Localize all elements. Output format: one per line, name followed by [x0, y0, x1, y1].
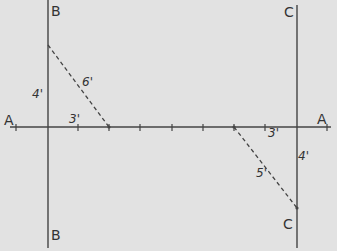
label-left-base: 3': [69, 113, 80, 125]
diagram-canvas: B B C C A A 4' 6' 3' 3' 4' 5': [0, 0, 337, 251]
label-b-bottom: B: [51, 228, 61, 242]
label-a-right: A: [317, 112, 327, 126]
label-a-left: A: [4, 113, 14, 127]
label-c-top: C: [284, 5, 294, 19]
label-left-hypotenuse: 6': [82, 76, 93, 88]
label-b-top: B: [51, 4, 61, 18]
label-right-hypotenuse: 5': [256, 167, 267, 179]
label-right-base: 3': [268, 127, 279, 139]
diagram-lines: [0, 0, 337, 251]
label-left-vertical: 4': [32, 88, 43, 100]
label-c-bottom: C: [283, 217, 293, 231]
label-right-vertical: 4': [298, 150, 309, 162]
